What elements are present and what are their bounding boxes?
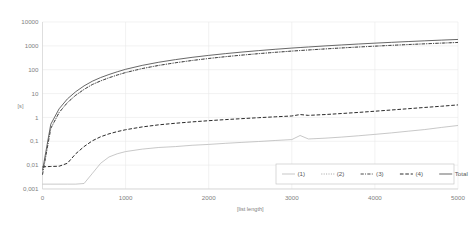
x-tick-label-2: 2000 [202, 194, 216, 201]
legend-label-3: (3) [376, 170, 384, 177]
x-tick-label-1: 1000 [119, 194, 133, 201]
y-axis-title: [s] [18, 103, 24, 109]
y-tick-label-0: 10000 [21, 18, 39, 25]
legend-label-1: (1) [298, 170, 306, 177]
x-axis-title: [list length] [237, 206, 264, 212]
legend-label-Total: Total [455, 170, 468, 177]
y-tick-label-3: 10 [32, 90, 39, 97]
legend-label-2: (2) [337, 170, 345, 177]
x-tick-label-0: 0 [41, 194, 45, 201]
series-line-Total [43, 39, 459, 170]
legend-label-4: (4) [415, 170, 423, 177]
y-tick-label-2: 100 [28, 66, 39, 73]
y-tick-label-5: 0,1 [30, 137, 39, 144]
x-tick-label-4: 4000 [368, 194, 382, 201]
x-tick-label-3: 3000 [285, 194, 299, 201]
series-line-4 [43, 105, 459, 167]
series-line-2 [43, 42, 459, 174]
y-tick-label-4: 1 [35, 114, 39, 121]
y-tick-label-1: 1000 [25, 42, 39, 49]
y-tick-label-7: 0,001 [23, 185, 39, 192]
y-tick-label-6: 0,01 [26, 161, 39, 168]
chart-canvas: 1000010001001010,10,010,0010100020003000… [0, 0, 475, 233]
x-tick-label-5: 5000 [451, 194, 465, 201]
line-chart: 1000010001001010,10,010,0010100020003000… [0, 0, 475, 233]
series-line-3 [43, 42, 459, 174]
